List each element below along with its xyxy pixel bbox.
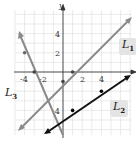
svg-text:y: y [58,1,64,10]
svg-text:4: 4 [55,30,60,39]
label-L2: L2 [110,100,128,117]
svg-text:-4: -4 [20,75,28,84]
label-L1: L1 [119,38,136,55]
coordinate-graph: -4 -2 2 4 4 2 -4 y [0,0,136,144]
svg-text:4: 4 [99,75,104,84]
label-L3: L3 [2,86,20,103]
svg-text:2: 2 [80,75,85,84]
svg-text:2: 2 [55,49,60,58]
